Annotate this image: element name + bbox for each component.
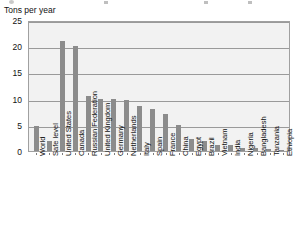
x-axis-tick-mark xyxy=(166,153,167,155)
x-axis-slot: India xyxy=(224,153,237,226)
x-axis-tick-mark xyxy=(218,153,219,155)
x-axis-tick-mark xyxy=(140,153,141,155)
x-axis-slot: Ethiopia xyxy=(276,153,289,226)
x-axis-slot: Netherlands xyxy=(120,153,133,226)
x-axis-tick-mark xyxy=(88,153,89,155)
x-axis-slot: Egypt xyxy=(185,153,198,226)
y-axis-tick-label: 5 xyxy=(17,122,22,131)
bar-slot xyxy=(185,22,198,151)
y-axis-tick-label: 25 xyxy=(13,17,22,26)
x-axis-tick-mark xyxy=(179,153,180,155)
x-axis-tick-mark xyxy=(205,153,206,155)
y-axis-unit-label: Tons per year xyxy=(4,5,56,16)
x-axis-tick-mark xyxy=(153,153,154,155)
x-axis-slot: Nigeria xyxy=(237,153,250,226)
x-axis-tick-mark xyxy=(257,153,258,155)
y-axis-tick-label: 10 xyxy=(13,95,22,104)
x-axis-tick-label: Germany xyxy=(117,125,125,156)
x-axis-tick-label: Ethiopia xyxy=(286,129,294,156)
y-axis-tick-label: 20 xyxy=(13,43,22,52)
sliver-square-icon xyxy=(204,1,208,4)
x-axis-tick-mark xyxy=(101,153,102,155)
x-axis-tick-label: Safe level xyxy=(52,123,60,156)
x-axis-slot: Tanzania xyxy=(263,153,276,226)
x-axis-slot: China xyxy=(172,153,185,226)
x-axis-tick-label: Vietnam xyxy=(221,129,229,156)
x-axis-slot: Vietnam xyxy=(211,153,224,226)
x-axis-tick-mark xyxy=(244,153,245,155)
x-axis-tick-mark xyxy=(192,153,193,155)
x-axis-tick-label: Bangladesh xyxy=(260,116,268,156)
x-axis-slot: Safe level xyxy=(42,153,55,226)
bar-slot xyxy=(146,22,159,151)
sliver-dot-icon xyxy=(9,0,14,4)
sliver-square-icon xyxy=(104,1,108,4)
x-axis-tick-label: Tanzania xyxy=(273,126,281,156)
x-axis-tick-mark xyxy=(36,153,37,155)
x-axis-tick-mark xyxy=(127,153,128,155)
bar-slot xyxy=(159,22,172,151)
x-axis-slot: Germany xyxy=(107,153,120,226)
x-axis-tick-label: United Kingdom xyxy=(104,103,112,156)
x-axis: WorldSafe levelUnited StatesCanadaRussia… xyxy=(28,153,290,226)
bar-slot xyxy=(198,22,211,151)
sliver-square-icon xyxy=(248,1,252,4)
x-axis-slot: United Kingdom xyxy=(94,153,107,226)
x-axis-slot: Italy xyxy=(133,153,146,226)
x-axis-tick-mark xyxy=(62,153,63,155)
y-axis-tick-label: 15 xyxy=(13,69,22,78)
y-axis: 0510152025 xyxy=(0,21,25,152)
x-axis-tick-label: United States xyxy=(65,111,73,156)
x-axis-tick-label: Netherlands xyxy=(130,116,138,156)
x-axis-slot: Spain xyxy=(146,153,159,226)
x-axis-tick-mark xyxy=(114,153,115,155)
x-axis-slot: World xyxy=(29,153,42,226)
x-axis-slot: United States xyxy=(55,153,68,226)
x-axis-tick-mark xyxy=(270,153,271,155)
x-axis-tick-mark xyxy=(75,153,76,155)
y-axis-tick-label: 0 xyxy=(17,148,22,157)
bar-slot xyxy=(30,22,43,151)
x-axis-slot: Russian Federation xyxy=(81,153,94,226)
x-axis-tick-label: Russian Federation xyxy=(91,91,99,156)
x-axis-slot: Bangladesh xyxy=(250,153,263,226)
x-axis-slot: Brazil xyxy=(198,153,211,226)
bar-slot xyxy=(172,22,185,151)
x-axis-tick-mark xyxy=(283,153,284,155)
x-axis-tick-mark xyxy=(231,153,232,155)
x-axis-tick-mark xyxy=(49,153,50,155)
x-axis-slot: France xyxy=(159,153,172,226)
x-axis-slot: Canada xyxy=(68,153,81,226)
